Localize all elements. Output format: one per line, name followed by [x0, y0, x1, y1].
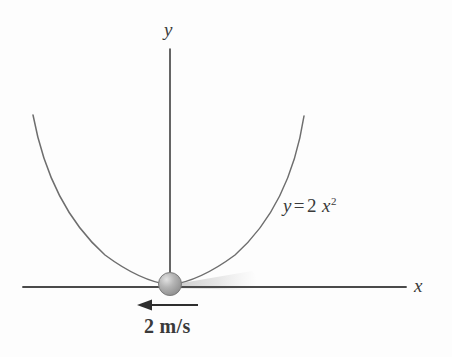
x-axis-label: x [414, 276, 422, 295]
velocity-arrow [137, 300, 198, 311]
velocity-label: 2 m/s [144, 316, 191, 336]
equation-lhs: y [283, 195, 292, 216]
equation-exponent: 2 [331, 195, 337, 207]
parabola-curve [33, 115, 304, 285]
equation-variable: x [322, 195, 331, 216]
curve-equation-label: y=2 x2 [283, 196, 337, 215]
equation-equals: = [292, 195, 307, 216]
physics-figure: y x y=2 x2 2 m/s [0, 0, 452, 357]
y-axis-label: y [164, 20, 172, 39]
figure-canvas [0, 0, 452, 357]
equation-coefficient: 2 [307, 195, 317, 216]
ball [159, 273, 182, 296]
